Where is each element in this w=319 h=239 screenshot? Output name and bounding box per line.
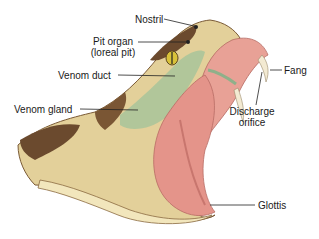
label-venom-duct: Venom duct <box>58 70 111 81</box>
label-nostril: Nostril <box>135 14 163 25</box>
label-discharge-orifice: Discharge orifice <box>226 106 278 128</box>
label-fang: Fang <box>284 65 307 76</box>
label-discharge-line1: Discharge <box>226 106 278 117</box>
snake-anatomy-diagram: Nostril Pit organ (loreal pit) Venom duc… <box>0 0 319 239</box>
nostril-dot <box>194 25 198 29</box>
label-discharge-line2: orifice <box>226 117 278 128</box>
fang-right <box>258 55 268 82</box>
label-pit-organ: Pit organ (loreal pit) <box>88 36 138 58</box>
label-venom-gland: Venom gland <box>14 104 72 115</box>
pit-organ-dot <box>186 40 190 44</box>
label-pit-organ-line1: Pit organ <box>88 36 138 47</box>
label-glottis: Glottis <box>258 200 286 211</box>
label-pit-organ-line2: (loreal pit) <box>88 47 138 58</box>
